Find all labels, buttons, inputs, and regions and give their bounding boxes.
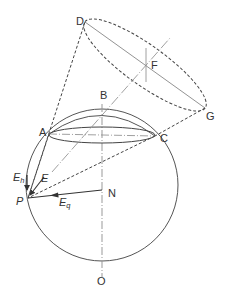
label-d: D: [76, 15, 84, 27]
label-b: B: [100, 89, 107, 101]
label-o: O: [97, 275, 106, 287]
label-a: A: [39, 126, 47, 138]
generator-c-p: [28, 136, 155, 198]
sphere-cone-diagram: D F B G A C N O P E Eh Eq: [0, 0, 226, 301]
generator-d-p: [28, 22, 85, 198]
label-g: G: [206, 110, 215, 122]
label-n: N: [108, 187, 116, 199]
label-p: P: [16, 195, 24, 207]
label-c: C: [160, 132, 168, 144]
label-eq: Eq: [59, 196, 71, 210]
label-e: E: [41, 172, 49, 184]
label-eh: Eh: [13, 171, 25, 185]
label-f: F: [151, 59, 158, 71]
